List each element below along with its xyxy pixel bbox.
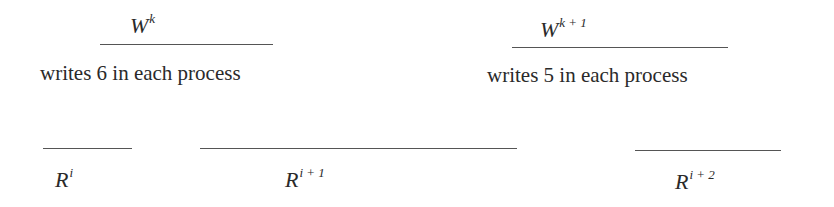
write-label-k: Wk: [130, 12, 155, 37]
read-label-i: Ri: [55, 166, 73, 191]
read-label-i1: Ri + 1: [285, 166, 325, 191]
read-label-i2: Ri + 2: [675, 168, 715, 193]
write-interval-k: [100, 44, 273, 45]
write-label-k1: Wk + 1: [540, 16, 587, 41]
write-interval-k1: [512, 47, 728, 48]
write-caption-k1: writes 5 in each process: [487, 65, 688, 86]
read-interval-i: [43, 148, 132, 149]
read-interval-i2: [635, 150, 781, 151]
write-caption-k: writes 6 in each process: [40, 63, 241, 84]
read-interval-i1: [200, 148, 517, 149]
diagram: Wk writes 6 in each process Wk + 1 write…: [0, 0, 834, 207]
